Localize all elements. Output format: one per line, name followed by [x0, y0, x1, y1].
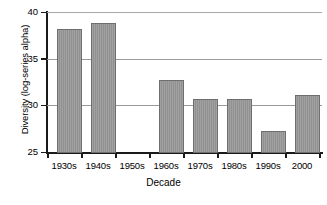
y-tick-mark-35	[41, 58, 47, 60]
bar-chart-figure: Diversity (log-series alpha) 40 35 30 25…	[0, 0, 327, 205]
x-tick-mark-7	[285, 153, 287, 158]
y-tick-mark-40	[41, 12, 47, 14]
x-tick-mark-5	[217, 153, 219, 158]
x-tick-mark-6	[251, 153, 253, 158]
y-tick-mark-30	[41, 105, 47, 107]
y-tick-label-30: 30	[14, 100, 38, 110]
y-tick-label-25: 25	[14, 147, 38, 157]
gridline-30	[47, 105, 322, 106]
bar-1980s	[227, 99, 252, 153]
x-axis-title: Decade	[0, 177, 327, 188]
x-tick-mark-3	[149, 153, 151, 158]
figure-caption	[18, 197, 318, 205]
x-tick-mark-2	[115, 153, 117, 158]
y-tick-label-40: 40	[14, 7, 38, 17]
x-tick-mark-4	[183, 153, 185, 158]
bar-2000s	[295, 95, 320, 153]
gridline-40	[47, 12, 322, 13]
bar-1970s	[193, 99, 218, 153]
gridline-35	[47, 59, 322, 60]
y-tick-label-35: 35	[14, 54, 38, 64]
bar-1960s	[159, 80, 184, 153]
bar-1940s	[91, 23, 116, 153]
bar-1930s	[57, 29, 82, 153]
x-tick-mark-1	[81, 153, 83, 158]
bar-1990s	[261, 131, 286, 153]
x-tick-label-2000s: 2000	[280, 161, 324, 171]
y-axis-title: Diversity (log-series alpha)	[19, 5, 30, 155]
x-tick-mark-0	[47, 153, 49, 158]
x-tick-mark-8	[319, 153, 321, 158]
